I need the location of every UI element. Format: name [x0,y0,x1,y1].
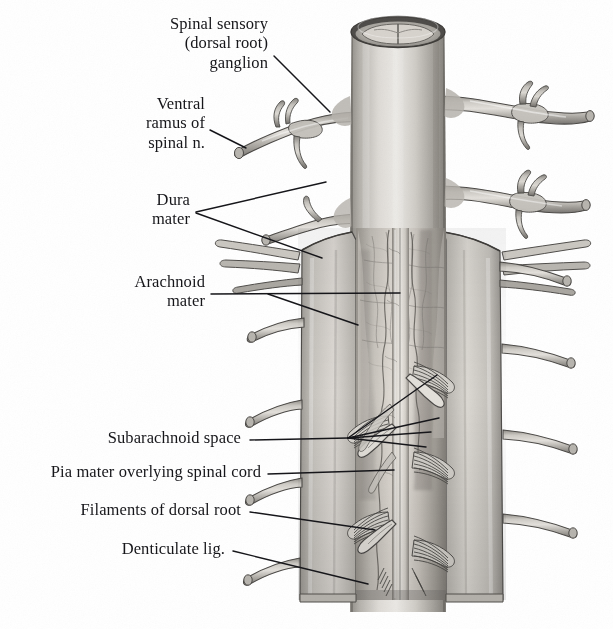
label-line: Pia mater overlying spinal cord [51,462,261,481]
anatomy-figure: Spinal sensory(dorsal root)ganglionVentr… [0,0,613,629]
label-line: Denticulate lig. [122,539,225,558]
label-spinal-sensory-ganglion: Spinal sensory(dorsal root)ganglion [0,14,268,72]
label-dura-mater: Duramater [0,190,190,229]
label-arachnoid-mater: Arachnoidmater [0,272,205,311]
label-line: spinal n. [148,133,205,152]
label-line: Spinal sensory [170,14,268,33]
label-line: mater [152,209,190,228]
label-ventral-ramus: Ventralramus ofspinal n. [0,94,205,152]
label-line: ramus of [146,113,205,132]
label-line: Ventral [157,94,205,113]
label-subarachnoid-space: Subarachnoid space [0,428,241,447]
label-pia-mater: Pia mater overlying spinal cord [0,462,261,481]
label-line: ganglion [209,53,268,72]
label-line: Dura [157,190,190,209]
label-line: mater [167,291,205,310]
label-line: Arachnoid [134,272,205,291]
label-line: (dorsal root) [185,33,268,52]
label-filaments-dorsal-root: Filaments of dorsal root [0,500,241,519]
label-line: Subarachnoid space [108,428,241,447]
label-denticulate-ligament: Denticulate lig. [0,539,225,558]
label-line: Filaments of dorsal root [80,500,241,519]
